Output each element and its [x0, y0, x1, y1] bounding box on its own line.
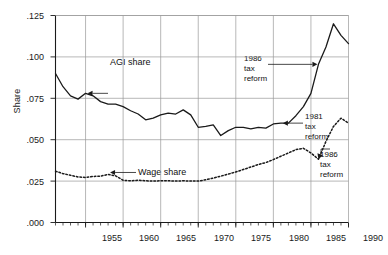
series-wage-share — [56, 118, 349, 181]
series-agi-share — [56, 24, 349, 136]
gridlines — [56, 16, 349, 223]
axis-frame — [56, 16, 349, 223]
axis-major-ticks — [51, 16, 349, 228]
data-series-group — [56, 24, 349, 181]
